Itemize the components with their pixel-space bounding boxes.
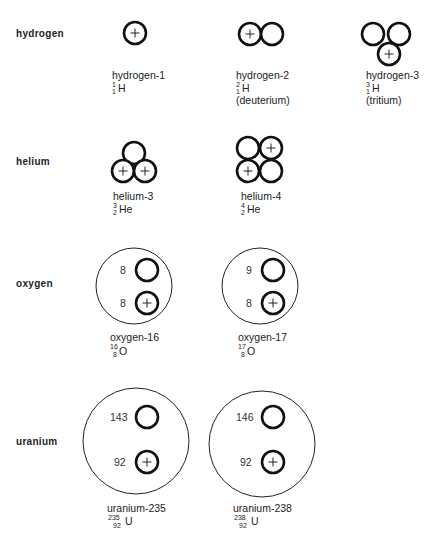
isotope-name: uranium-235 bbox=[107, 502, 166, 514]
element-symbol: H bbox=[242, 82, 250, 94]
proton-icon bbox=[124, 22, 146, 44]
uranium-235-label: uranium-235 235 92 U bbox=[107, 502, 166, 529]
helium-4-label: helium-4 4 2 He bbox=[241, 190, 281, 216]
hydrogen-3-label: hydrogen-3 3 1 H (tritium) bbox=[366, 69, 419, 106]
neutron-icon bbox=[262, 406, 284, 428]
uranium-238-nucleus: 146 92 bbox=[209, 391, 315, 497]
neutron-icon bbox=[136, 406, 158, 428]
uranium-235-nucleus: 143 92 bbox=[83, 388, 189, 494]
neutron-icon bbox=[237, 137, 259, 159]
row-label-uranium: uranium bbox=[16, 436, 58, 447]
oxygen-17-label: oxygen-17 17 8 O bbox=[238, 331, 287, 358]
neutron-icon bbox=[262, 259, 284, 281]
hydrogen-2-label: hydrogen-2 2 1 H (deuterium) bbox=[236, 69, 290, 106]
element-symbol: U bbox=[125, 515, 133, 527]
element-symbol: H bbox=[372, 82, 380, 94]
mass-number: 235 bbox=[108, 514, 120, 521]
nucleus-outline-icon bbox=[209, 391, 315, 497]
mass-number: 1 bbox=[112, 81, 116, 88]
mass-number: 238 bbox=[234, 514, 246, 521]
neutron-count: 146 bbox=[236, 411, 254, 423]
row-label-helium: helium bbox=[16, 156, 50, 167]
mass-number: 4 bbox=[241, 202, 245, 209]
row-label-hydrogen: hydrogen bbox=[16, 28, 64, 39]
neutron-count: 9 bbox=[246, 264, 252, 276]
isotope-name: helium-4 bbox=[241, 190, 281, 202]
isotope-name: hydrogen-2 bbox=[236, 69, 289, 81]
element-symbol: He bbox=[247, 203, 261, 215]
mass-number: 16 bbox=[110, 343, 118, 350]
nucleus-outline-icon bbox=[222, 248, 298, 324]
proton-icon bbox=[262, 451, 284, 473]
isotope-name: helium-3 bbox=[113, 190, 153, 202]
neutron-count: 143 bbox=[110, 411, 128, 423]
atomic-number: 92 bbox=[113, 522, 121, 529]
element-symbol: He bbox=[119, 203, 133, 215]
element-symbol: H bbox=[118, 82, 126, 94]
hydrogen-2-nucleus bbox=[239, 23, 283, 45]
mass-number: 17 bbox=[238, 343, 246, 350]
atomic-number: 2 bbox=[113, 209, 117, 216]
nucleus-outline-icon bbox=[96, 248, 172, 324]
proton-count: 92 bbox=[240, 456, 252, 468]
atomic-number: 1 bbox=[112, 88, 116, 95]
element-symbol: O bbox=[247, 345, 255, 357]
hydrogen-3-nucleus bbox=[362, 23, 410, 65]
mass-number: 2 bbox=[236, 81, 240, 88]
proton-icon bbox=[262, 292, 284, 314]
row-label-oxygen: oxygen bbox=[16, 278, 53, 289]
oxygen-17-nucleus: 9 8 bbox=[222, 248, 298, 324]
mass-number: 3 bbox=[366, 81, 370, 88]
proton-icon bbox=[239, 23, 261, 45]
neutron-icon bbox=[388, 23, 410, 45]
proton-icon bbox=[136, 451, 158, 473]
atomic-number: 8 bbox=[113, 351, 117, 358]
isotope-name: hydrogen-1 bbox=[112, 69, 165, 81]
element-symbol: U bbox=[251, 515, 259, 527]
neutron-icon bbox=[260, 160, 282, 182]
proton-icon bbox=[134, 160, 156, 182]
hydrogen-1-label: hydrogen-1 1 1 H bbox=[112, 69, 165, 95]
proton-count: 92 bbox=[114, 456, 126, 468]
atomic-number: 92 bbox=[239, 522, 247, 529]
proton-count: 8 bbox=[246, 297, 252, 309]
helium-4-nucleus bbox=[237, 137, 282, 182]
proton-icon bbox=[237, 160, 259, 182]
isotope-name: oxygen-16 bbox=[110, 331, 159, 343]
isotope-note: (deuterium) bbox=[236, 94, 290, 106]
neutron-icon bbox=[261, 23, 283, 45]
helium-3-label: helium-3 3 2 He bbox=[113, 190, 153, 216]
isotope-name: hydrogen-3 bbox=[366, 69, 419, 81]
atomic-number: 2 bbox=[241, 209, 245, 216]
proton-icon bbox=[260, 137, 282, 159]
isotope-note: (tritium) bbox=[366, 94, 402, 106]
helium-3-nucleus bbox=[112, 142, 156, 182]
neutron-count: 8 bbox=[120, 264, 126, 276]
isotope-name: oxygen-17 bbox=[238, 331, 287, 343]
proton-count: 8 bbox=[120, 297, 126, 309]
hydrogen-1-nucleus bbox=[124, 22, 146, 44]
atomic-number: 8 bbox=[241, 351, 245, 358]
element-symbol: O bbox=[119, 345, 127, 357]
oxygen-16-label: oxygen-16 16 8 O bbox=[110, 331, 159, 358]
nucleus-outline-icon bbox=[83, 388, 189, 494]
isotope-name: uranium-238 bbox=[233, 502, 292, 514]
neutron-icon bbox=[362, 23, 384, 45]
proton-icon bbox=[378, 43, 400, 65]
proton-icon bbox=[136, 292, 158, 314]
isotope-diagram: hydrogen hydrogen-1 1 1 H hydrogen-2 2 1… bbox=[0, 0, 436, 536]
oxygen-16-nucleus: 8 8 bbox=[96, 248, 172, 324]
neutron-icon bbox=[136, 259, 158, 281]
uranium-238-label: uranium-238 238 92 U bbox=[233, 502, 292, 529]
mass-number: 3 bbox=[113, 202, 117, 209]
proton-icon bbox=[112, 160, 134, 182]
